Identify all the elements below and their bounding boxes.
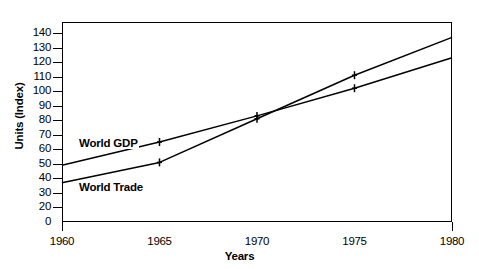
data-point-marker xyxy=(157,138,162,146)
series-label-world-gdp: World GDP xyxy=(78,137,139,149)
x-tick-label-1965: 1965 xyxy=(130,235,190,247)
x-tick-label-1970: 1970 xyxy=(227,235,287,247)
series-line-world-gdp xyxy=(62,58,452,166)
line-chart: Units (Index) 14013012011010090807060504… xyxy=(0,0,479,269)
x-tick-1980 xyxy=(452,222,453,231)
x-tick-label-1975: 1975 xyxy=(325,235,385,247)
data-point-marker xyxy=(352,71,357,79)
x-tick-1960 xyxy=(62,222,63,231)
series-label-world-trade: World Trade xyxy=(78,181,144,193)
data-point-marker xyxy=(157,158,162,166)
x-axis-title: Years xyxy=(0,250,479,262)
series-layer xyxy=(0,0,479,269)
series-line-world-trade xyxy=(62,37,452,182)
x-tick-label-1980: 1980 xyxy=(422,235,479,247)
data-point-marker xyxy=(352,84,357,92)
x-tick-label-1960: 1960 xyxy=(32,235,92,247)
